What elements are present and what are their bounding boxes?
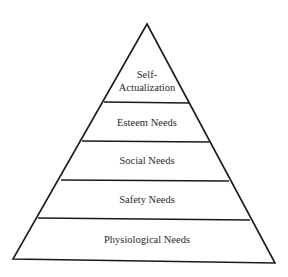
divider-1 (104, 102, 189, 103)
level-social-needs: Social Needs (119, 155, 174, 166)
level-label: Esteem Needs (117, 117, 177, 128)
level-physiological-needs: Physiological Needs (104, 234, 190, 245)
level-self-actualization: Self- Actualization (119, 69, 176, 93)
level-label: Safety Needs (119, 194, 175, 205)
level-label-line: Actualization (119, 82, 176, 93)
level-label: Physiological Needs (104, 234, 190, 245)
level-esteem-needs: Esteem Needs (117, 117, 177, 128)
maslow-pyramid: Self- Actualization Esteem Needs Social … (0, 0, 288, 277)
divider-3 (61, 180, 229, 181)
level-safety-needs: Safety Needs (119, 194, 175, 205)
level-label: Social Needs (119, 155, 174, 166)
level-label-line: Self- (137, 69, 158, 80)
pyramid-outline (13, 24, 275, 263)
divider-2 (82, 141, 209, 142)
divider-4 (38, 218, 250, 220)
